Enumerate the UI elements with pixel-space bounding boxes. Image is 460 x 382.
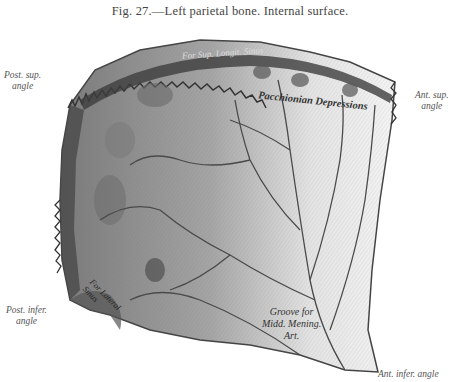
label-post-infer-angle: Post. infer. angle — [6, 305, 47, 327]
label-ant-infer-angle: Ant. infer. angle — [378, 369, 439, 380]
label-ant-sup-angle: Ant. sup. angle — [415, 90, 449, 112]
label-post-sup-angle: Post. sup. angle — [4, 70, 41, 92]
label-groove-midd-mening-art: Groove for Midd. Mening. Art. — [262, 306, 321, 342]
